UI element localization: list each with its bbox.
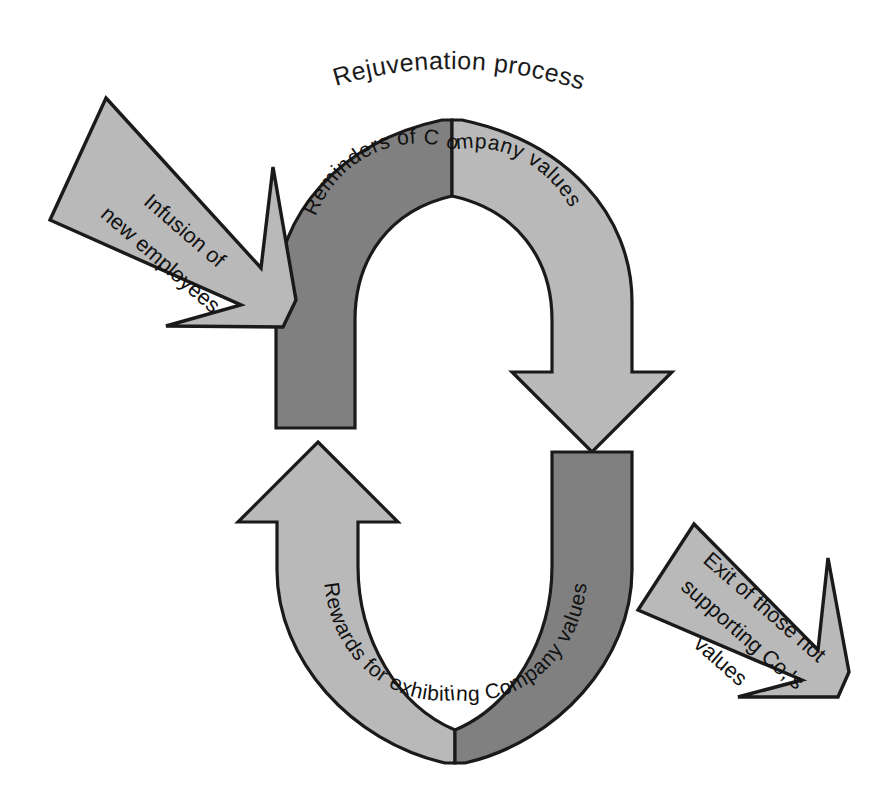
exit-callout: Exit of those not supporting Co,'s value…: [638, 524, 849, 697]
upper-arc-dark-band: [276, 120, 452, 428]
infusion-callout: Infusion of new employees: [50, 98, 296, 327]
page-title: Rejuvenation process: [329, 46, 588, 95]
rejuvenation-process-diagram: Reminders of C ompany values Rewards for…: [0, 0, 888, 800]
lower-arc-dark-band: [455, 452, 632, 763]
diagram-canvas: Reminders of C ompany values Rewards for…: [0, 0, 888, 800]
